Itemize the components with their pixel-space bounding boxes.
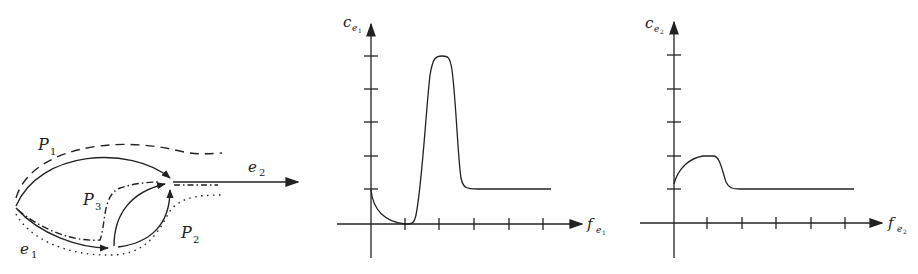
xlabel-subsub: 1	[602, 229, 606, 236]
ylabel-sub: e	[352, 23, 357, 33]
xlabel-sub: e	[596, 225, 601, 235]
xlabel-main: f	[887, 214, 896, 232]
ylabel-subsub: 2	[660, 28, 664, 35]
xlabel-sub: e	[897, 224, 902, 234]
label-e1-sub: 1	[31, 249, 37, 260]
curve-ce1	[371, 56, 551, 224]
label-e2-sub: 2	[259, 167, 265, 178]
ylabel-subsub: 1	[358, 27, 362, 34]
edge-outer-arc	[118, 190, 170, 247]
ylabel-sub: e	[654, 24, 659, 34]
figure-canvas: P 1 P 3 P 2 e 1 e 2	[0, 0, 918, 274]
label-p3-sub: 3	[95, 201, 101, 212]
curve-ce2	[674, 156, 854, 189]
edge-inner-arc	[114, 184, 165, 246]
edge-e1-arc	[16, 208, 108, 248]
xlabel-main: f	[586, 215, 595, 233]
chart-ce1-labels: c e 1 f e 1	[343, 13, 606, 236]
xlabel-subsub: 2	[903, 228, 907, 235]
label-p2-sub: 2	[193, 234, 199, 245]
diagram-labels: P 1 P 3 P 2 e 1 e 2	[20, 135, 265, 260]
chart-ce2-labels: c e 2 f e 2	[645, 14, 907, 235]
label-e1-main: e	[20, 240, 29, 258]
ylabel-main: c	[343, 13, 352, 31]
ylabel-main: c	[645, 14, 654, 32]
chart-ce1	[337, 24, 582, 258]
label-p3-main: P	[82, 190, 94, 209]
label-e2-main: e	[248, 158, 257, 176]
label-p1-main: P	[37, 135, 49, 154]
chart-ce2	[640, 22, 882, 258]
label-p2-main: P	[180, 223, 192, 242]
label-p1-sub: 1	[50, 146, 56, 157]
